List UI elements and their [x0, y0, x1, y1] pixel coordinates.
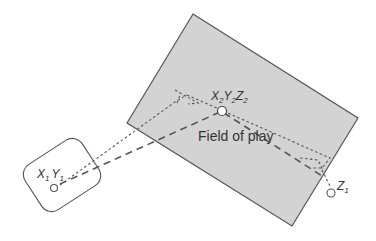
field-of-play-label: Field of play: [198, 128, 273, 144]
camera-point: [51, 185, 58, 192]
target-point: [218, 107, 227, 116]
diagram-canvas: Field of play X2Y2Z2 X1Y1 Z1: [0, 0, 376, 241]
target-coordinates-label: X2Y2Z2: [210, 89, 248, 105]
height-label: Z1: [336, 179, 349, 195]
height-point: [327, 189, 335, 197]
